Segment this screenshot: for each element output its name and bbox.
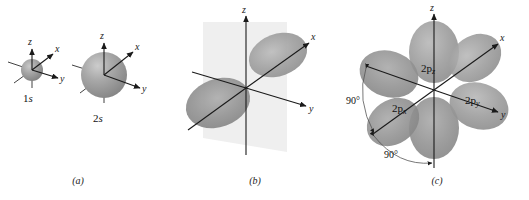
axis-label-y-c: y — [500, 109, 506, 120]
orbital-label-1s: 1s — [23, 92, 33, 104]
panel-b-graphic: z x y (b) — [170, 0, 340, 200]
orbital-label-2s: 2s — [93, 112, 103, 124]
panel-caption-a: (a) — [72, 175, 84, 187]
angle-label-upper: 90° — [346, 95, 360, 106]
axis-label-x-1s: x — [54, 43, 60, 54]
panel-caption-c: (c) — [431, 175, 443, 187]
panel-a-graphic: z x y 1s z x y — [0, 0, 170, 200]
orbital-figure: z x y 1s z x y — [0, 0, 529, 200]
axis-label-z-c: z — [429, 2, 434, 13]
axis-label-y-2s: y — [141, 83, 147, 94]
panel-caption-b: (b) — [249, 175, 261, 187]
orbital-2s: z x y 2s — [72, 30, 147, 124]
axis-label-z-2s: z — [99, 30, 104, 41]
panel-b: z x y (b) — [170, 0, 340, 200]
panel-a: z x y 1s z x y — [0, 0, 170, 200]
axis-label-y-b: y — [308, 103, 314, 114]
axis-label-z-1s: z — [27, 36, 32, 47]
orbital-1s: z x y 1s — [8, 36, 65, 104]
axis-label-x-c: x — [499, 32, 505, 43]
panel-c: z x y 90° 90° 2pz 2px 2py (c) — [340, 0, 529, 200]
axis-label-z-b: z — [241, 4, 246, 15]
angle-label-lower: 90° — [384, 149, 398, 160]
axis-label-x-2s: x — [134, 41, 140, 52]
panel-c-graphic: z x y 90° 90° 2pz 2px 2py (c) — [340, 0, 529, 200]
axis-label-y-1s: y — [59, 73, 65, 84]
axis-label-x-b: x — [310, 31, 316, 42]
